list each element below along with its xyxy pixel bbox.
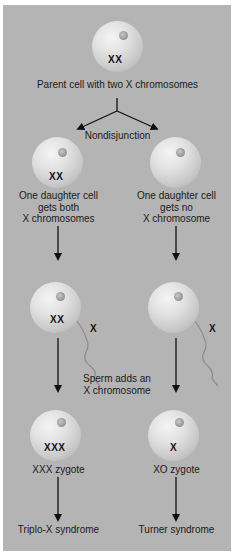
left-outcome-label: Triplo-X syndrome — [0, 524, 117, 536]
right-outcome-label: Turner syndrome — [118, 524, 235, 536]
right-egg-cell — [148, 282, 199, 333]
left-egg-chromosomes: XX — [50, 314, 64, 325]
label-line: gets no — [118, 202, 235, 214]
left-daughter-cell: XX — [32, 137, 83, 188]
label-line: Sperm adds an — [70, 373, 164, 385]
left-daughter-chromosomes: XX — [49, 171, 63, 182]
nondisjunction-split-arrow — [80, 98, 155, 128]
label-line: X chromosomes — [0, 213, 117, 225]
right-daughter-label: One daughter cell gets no X chromosome — [118, 190, 235, 225]
right-zygote-label: XO zygote — [118, 464, 235, 476]
right-zygote-cell: X — [148, 410, 199, 461]
nucleolus — [57, 418, 66, 427]
right-zygote-chromosomes: X — [170, 442, 177, 453]
label-line: One daughter cell — [0, 190, 117, 202]
right-daughter-cell — [150, 137, 201, 188]
label-line: gets both — [0, 202, 117, 214]
left-zygote-chromosomes: XXX — [44, 442, 66, 453]
left-egg-cell: XX — [30, 282, 81, 333]
nucleolus — [119, 31, 128, 40]
label-line: X chromosome — [70, 385, 164, 397]
nucleolus — [176, 148, 185, 157]
left-zygote-label: XXX zygote — [0, 464, 117, 476]
nondisjunction-label: Nondisjunction — [0, 130, 235, 142]
nucleolus — [56, 292, 65, 301]
parent-label: Parent cell with two X chromosomes — [0, 79, 235, 91]
label-line: X chromosome — [118, 213, 235, 225]
parent-chromosomes: XX — [108, 54, 122, 65]
left-daughter-label: One daughter cell gets both X chromosome… — [0, 190, 117, 225]
parent-cell: XX — [92, 21, 143, 72]
nucleolus — [174, 292, 183, 301]
label-line: One daughter cell — [118, 190, 235, 202]
left-zygote-cell: XXX — [30, 410, 81, 461]
sperm-adds-label: Sperm adds an X chromosome — [70, 373, 164, 396]
nucleolus — [175, 418, 184, 427]
right-sperm-chromosome: X — [209, 323, 216, 334]
left-sperm-chromosome: X — [90, 323, 97, 334]
nucleolus — [58, 148, 67, 157]
